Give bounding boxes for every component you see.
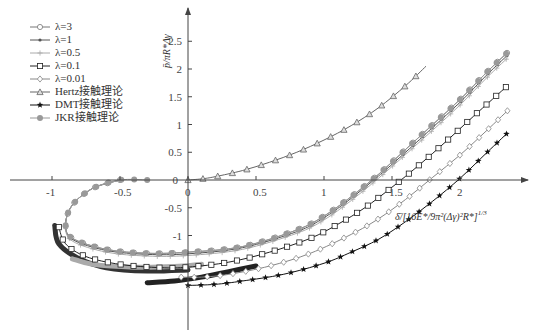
hexagon-marker-icon [246, 242, 252, 248]
hexagon-legend-icon [30, 113, 52, 123]
star-marker-icon [361, 243, 367, 249]
x-tick-label: 0 [185, 186, 191, 198]
square-marker-icon [69, 246, 74, 251]
series-line [59, 86, 508, 268]
square-marker-icon [365, 203, 370, 208]
square-marker-icon [196, 264, 201, 269]
hexagon-marker-icon [350, 192, 356, 198]
hexagon-marker-icon [233, 245, 239, 251]
diamond-marker-icon [407, 193, 412, 199]
triangle-legend-icon [30, 87, 52, 97]
star-marker-icon [237, 278, 243, 284]
star-marker-icon [275, 272, 281, 278]
hexagon-marker-icon [156, 250, 162, 256]
hexagon-marker-icon [79, 240, 85, 246]
series-line [66, 52, 508, 253]
triangle-marker-icon [328, 134, 334, 140]
star-marker-icon [325, 258, 331, 264]
dot-legend-icon [30, 35, 52, 45]
legend-label: DMT接触理论 [55, 98, 123, 111]
star-marker-icon [262, 274, 268, 280]
square-marker-icon [465, 119, 470, 124]
hexagon-marker-icon [475, 78, 481, 84]
square-marker-icon [144, 264, 149, 269]
hexagon-marker-icon [93, 184, 99, 190]
y-tick-label: -0.5 [165, 202, 183, 214]
square-marker-icon [37, 63, 42, 68]
hexagon-marker-icon [503, 51, 509, 57]
x-tick-label: -0.5 [114, 186, 132, 198]
square-marker-icon [332, 223, 337, 228]
square-marker-icon [105, 260, 110, 265]
square-marker-icon [436, 146, 441, 151]
square-marker-icon [455, 128, 460, 133]
square-marker-icon [321, 230, 326, 235]
series-dot [64, 54, 509, 256]
star-marker-icon [349, 248, 355, 254]
square-marker-icon [183, 265, 188, 270]
legend-item: Hertz接触理论 [30, 85, 123, 98]
square-marker-icon [406, 171, 411, 176]
legend-item: λ=3 [30, 20, 123, 33]
series-circle [63, 50, 510, 256]
diamond-marker-icon [330, 241, 335, 247]
square-marker-icon [209, 262, 214, 267]
square-marker-icon [80, 253, 85, 258]
square-marker-icon [56, 225, 61, 230]
hexagon-marker-icon [428, 123, 434, 129]
square-marker-icon [157, 265, 162, 270]
hexagon-marker-icon [296, 226, 302, 232]
hexagon-marker-icon [117, 248, 123, 254]
hexagon-marker-icon [130, 250, 136, 256]
y-axis-label: p̄/πR*Δγ [161, 33, 172, 69]
star-marker-icon [373, 237, 379, 243]
square-marker-icon [354, 210, 359, 215]
square-legend-icon [30, 61, 52, 71]
hexagon-marker-icon [283, 231, 289, 237]
diamond-marker-icon [293, 255, 298, 261]
triangle-marker-icon [286, 152, 292, 158]
diamond-marker-icon [437, 169, 442, 175]
y-tick-label: 1.5 [168, 91, 182, 103]
x-tick-label: 1.5 [389, 186, 403, 198]
hexagon-marker-icon [195, 249, 201, 255]
legend-item: JKR接触理论 [30, 111, 123, 124]
hexagon-marker-icon [307, 221, 313, 227]
dot-marker-icon [38, 38, 41, 41]
hexagon-marker-icon [380, 167, 386, 173]
circle-legend-icon [30, 22, 52, 32]
legend-label: λ=3 [55, 20, 72, 33]
legend-label: λ=0.5 [55, 46, 80, 59]
hexagon-marker-icon [220, 246, 226, 252]
square-marker-icon [474, 111, 479, 116]
hexagon-marker-icon [399, 149, 405, 155]
square-marker-icon [446, 137, 451, 142]
hexagon-marker-icon [169, 250, 175, 256]
legend-item: λ=1 [30, 33, 123, 46]
legend: λ=3λ=1λ=0.5λ=0.1λ=0.01Hertz接触理论DMT接触理论JK… [30, 20, 123, 124]
hexagon-marker-icon [494, 60, 500, 66]
triangle-marker-icon [341, 127, 347, 133]
origin-label: 0 [173, 174, 179, 186]
y-tick-label: 2 [177, 63, 183, 75]
square-marker-icon [170, 265, 175, 270]
hexagon-marker-icon [419, 132, 425, 138]
hexagon-marker-icon [390, 158, 396, 164]
x-tick-label: 1 [321, 186, 327, 198]
circle-marker-icon [37, 24, 42, 29]
diamond-marker-icon [318, 246, 323, 252]
hexagon-marker-icon [484, 69, 490, 75]
series-square [56, 85, 508, 271]
square-marker-icon [234, 258, 239, 263]
plus-legend-icon [30, 48, 52, 58]
hexagon-marker-icon [65, 210, 71, 216]
hexagon-marker-icon [340, 200, 346, 206]
diamond-legend-icon [30, 74, 52, 84]
hexagon-marker-icon [207, 248, 213, 254]
legend-label: JKR接触理论 [55, 111, 119, 124]
triangle-marker-icon [354, 119, 360, 125]
y-tick-label: -1 [173, 230, 182, 242]
series-line [188, 66, 426, 180]
square-marker-icon [426, 154, 431, 159]
x-tick-label: 0.5 [253, 186, 267, 198]
